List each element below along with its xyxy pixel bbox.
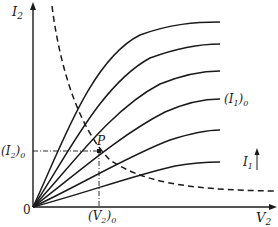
i2-zero-label: (I2)0 — [1, 144, 25, 160]
curve-2 — [33, 44, 220, 207]
x-axis-arrow-icon — [269, 204, 277, 210]
origin-label: 0 — [23, 203, 31, 217]
curve-5 — [33, 130, 220, 207]
i1-parameter-label: I1 — [242, 155, 253, 171]
curve-4-labeled — [33, 99, 220, 207]
v2-zero-label: (V2)0 — [88, 209, 116, 225]
characteristic-diagram: I2 V2 0 P (I2)0 (V2)0 (I1)0 I1 — [0, 0, 278, 227]
arrow-up-icon — [255, 148, 260, 155]
y-axis-arrow-icon — [30, 2, 36, 10]
y-axis-label: I2 — [11, 4, 23, 21]
family-curves — [33, 22, 220, 207]
i1-zero-curve-label: (I1)0 — [224, 92, 248, 108]
x-axis-label: V2 — [256, 210, 271, 227]
point-p-label: P — [96, 134, 106, 148]
operating-point-marker — [97, 149, 101, 153]
